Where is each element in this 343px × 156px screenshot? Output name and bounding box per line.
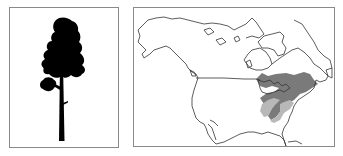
greenland-edge [294,20,332,68]
newfoundland [326,68,332,78]
west-coast [192,78,216,144]
arctic-island-3 [234,36,240,42]
hudson-bay [244,48,272,70]
arctic-island-1 [204,28,214,35]
baja-peninsula [208,120,218,140]
north-america-map [134,8,334,146]
gulf-coast [216,132,280,144]
tree-panel: Tree silhouette [9,7,119,148]
arctic-island-2 [216,38,226,45]
alaska-south-coast [138,30,198,78]
caribbean-island [288,141,302,144]
map-panel: North America range map [133,7,335,147]
alaska-coast [138,17,264,38]
us-canada-border [196,78,260,80]
tree-silhouette-icon [10,8,118,147]
